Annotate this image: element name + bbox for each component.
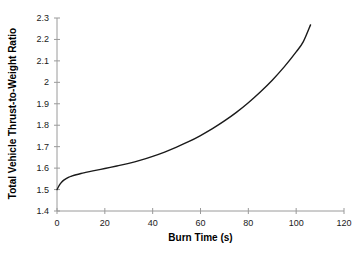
x-axis-title: Burn Time (s) [57,232,344,243]
y-tick-label: 1.7 [23,142,49,152]
y-tick-label: 1.8 [23,120,49,130]
y-tick-label: 1.9 [23,99,49,109]
x-tick-label: 40 [140,218,166,228]
y-tick-label: 1.6 [23,163,49,173]
data-series-line [57,25,311,190]
x-tick-label: 20 [92,218,118,228]
y-tick-label: 2.3 [23,13,49,23]
chart-figure: 1.41.51.61.71.81.922.12.22.3 02040608010… [0,0,359,253]
y-tick-label: 1.5 [23,185,49,195]
y-tick-label: 1.4 [23,206,49,216]
x-tick-label: 100 [283,218,309,228]
axis-lines [57,18,344,211]
x-tick-label: 80 [235,218,261,228]
plot-area [0,0,359,253]
y-tick-label: 2.2 [23,34,49,44]
x-tick-label: 60 [188,218,214,228]
y-tick-label: 2 [23,77,49,87]
y-tick-label: 2.1 [23,56,49,66]
y-axis-title: Total Vehicle Thrust-to-Weight Ratio [7,4,18,224]
x-tick-label: 0 [44,218,70,228]
x-tick-label: 120 [331,218,357,228]
